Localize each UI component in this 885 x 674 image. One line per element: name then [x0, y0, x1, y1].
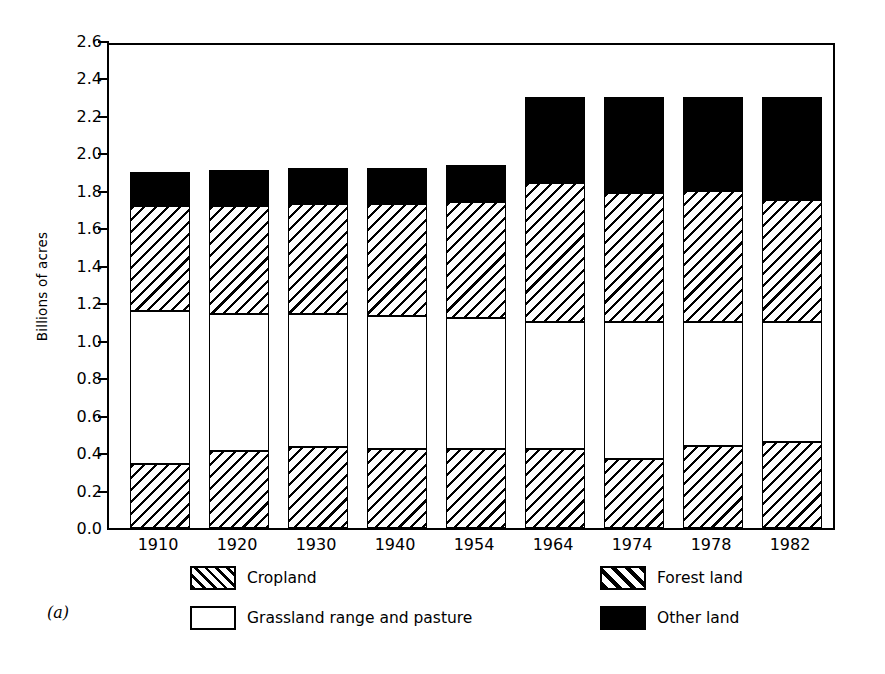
x-axis-tick-label-1974: 1974: [612, 535, 653, 554]
bar-segment-forest-land[interactable]: [604, 193, 664, 322]
bar-1910[interactable]: [130, 172, 190, 528]
bar-1920[interactable]: [209, 170, 269, 528]
bar-segment-forest-land[interactable]: [367, 204, 427, 316]
y-axis-tick-label: 1.0: [77, 331, 102, 350]
bar-1954[interactable]: [446, 165, 506, 528]
chart-legend: Cropland Forest land Grassland range and…: [0, 560, 885, 655]
legend-label-grassland: Grassland range and pasture: [247, 609, 472, 627]
bar-segment-cropland[interactable]: [288, 447, 348, 528]
bar-segment-cropland[interactable]: [762, 442, 822, 528]
legend-label-cropland: Cropland: [247, 569, 317, 587]
y-axis-tick-label: 1.4: [77, 256, 102, 275]
bar-1974[interactable]: [604, 97, 664, 528]
bar-segment-cropland[interactable]: [446, 449, 506, 528]
bar-segment-other-land[interactable]: [604, 97, 664, 193]
x-axis-tick-label-1978: 1978: [691, 535, 732, 554]
legend-swatch-other-land-icon: [600, 606, 646, 630]
bar-1940[interactable]: [367, 168, 427, 528]
bar-segment-grassland[interactable]: [604, 322, 664, 459]
x-axis-tick-label-1920: 1920: [217, 535, 258, 554]
bar-segment-grassland[interactable]: [367, 316, 427, 449]
bar-1978[interactable]: [683, 97, 743, 528]
bar-segment-cropland[interactable]: [209, 451, 269, 528]
legend-label-other-land: Other land: [657, 609, 739, 627]
bar-segment-other-land[interactable]: [762, 97, 822, 200]
y-axis-tick-label: 2.2: [77, 106, 102, 125]
bar-segment-grassland[interactable]: [130, 311, 190, 465]
x-axis-tick-label-1930: 1930: [296, 535, 337, 554]
bar-segment-other-land[interactable]: [130, 172, 190, 206]
x-axis-tick-label-1954: 1954: [454, 535, 495, 554]
plot-area: 0.00.20.40.60.81.01.21.41.61.82.02.22.42…: [107, 43, 835, 530]
x-axis-tick-label-1964: 1964: [533, 535, 574, 554]
bar-segment-forest-land[interactable]: [525, 183, 585, 322]
y-axis-tick-label: 0.4: [77, 444, 102, 463]
bar-segment-forest-land[interactable]: [209, 206, 269, 315]
y-axis-tick-label: 2.6: [77, 32, 102, 51]
legend-item-forest-land: Forest land: [600, 566, 743, 590]
y-axis-title: Billions of acres: [28, 43, 56, 530]
legend-swatch-cropland-icon: [190, 566, 236, 590]
bar-segment-grassland[interactable]: [209, 314, 269, 451]
panel-label: (a): [47, 603, 69, 622]
y-axis-tick-label: 1.8: [77, 181, 102, 200]
y-axis-tick-label: 0.8: [77, 369, 102, 388]
bar-segment-cropland[interactable]: [130, 464, 190, 528]
bar-1930[interactable]: [288, 168, 348, 528]
legend-swatch-forest-land-icon: [600, 566, 646, 590]
bar-segment-cropland[interactable]: [604, 459, 664, 528]
y-axis-tick-label: 0.6: [77, 406, 102, 425]
bar-segment-other-land[interactable]: [367, 168, 427, 204]
legend-label-forest-land: Forest land: [657, 569, 743, 587]
y-axis-tick-label: 2.4: [77, 69, 102, 88]
bar-segment-other-land[interactable]: [446, 165, 506, 202]
bar-segment-cropland[interactable]: [683, 446, 743, 528]
legend-item-grassland: Grassland range and pasture: [190, 606, 472, 630]
bar-segment-cropland[interactable]: [367, 449, 427, 528]
bar-segment-forest-land[interactable]: [446, 202, 506, 318]
bar-segment-grassland[interactable]: [288, 314, 348, 447]
bar-segment-grassland[interactable]: [683, 322, 743, 446]
bar-segment-grassland[interactable]: [525, 322, 585, 449]
y-axis-tick-label: 0.0: [77, 519, 102, 538]
bar-segment-other-land[interactable]: [288, 168, 348, 204]
bar-segment-other-land[interactable]: [683, 97, 743, 191]
figure-stacked-bar-chart: Billions of acres 0.00.20.40.60.81.01.21…: [0, 0, 885, 674]
bar-segment-grassland[interactable]: [762, 322, 822, 442]
y-axis-tick-label: 1.6: [77, 219, 102, 238]
x-axis-tick-label-1910: 1910: [138, 535, 179, 554]
bar-1964[interactable]: [525, 97, 585, 528]
y-axis-tick-label: 2.0: [77, 144, 102, 163]
bar-segment-forest-land[interactable]: [130, 206, 190, 311]
y-axis-tick-label: 0.2: [77, 481, 102, 500]
legend-item-cropland: Cropland: [190, 566, 317, 590]
x-axis-tick-label-1940: 1940: [375, 535, 416, 554]
bar-1982[interactable]: [762, 97, 822, 528]
bar-segment-other-land[interactable]: [209, 170, 269, 206]
x-axis-tick-label-1982: 1982: [770, 535, 811, 554]
bar-segment-cropland[interactable]: [525, 449, 585, 528]
y-axis-tick-label: 1.2: [77, 294, 102, 313]
legend-swatch-grassland-icon: [190, 606, 236, 630]
bar-segment-other-land[interactable]: [525, 97, 585, 183]
bar-segment-forest-land[interactable]: [288, 204, 348, 315]
bar-segment-grassland[interactable]: [446, 318, 506, 449]
legend-item-other-land: Other land: [600, 606, 739, 630]
bar-segment-forest-land[interactable]: [762, 200, 822, 322]
bar-segment-forest-land[interactable]: [683, 191, 743, 322]
